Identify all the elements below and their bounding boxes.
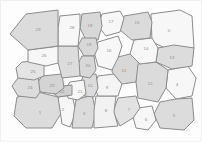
voronoi-cell-29 <box>10 10 58 50</box>
voronoi-cell-1 <box>14 92 62 128</box>
voronoi-cells-group <box>10 10 196 130</box>
voronoi-cell-12 <box>136 62 168 102</box>
voronoi-cell-5 <box>154 98 194 130</box>
voronoi-figure: 0123456789101112131415161718192021222324… <box>0 0 202 142</box>
voronoi-diagram-canvas: 0123456789101112131415161718192021222324… <box>0 0 202 142</box>
voronoi-cell-15 <box>120 12 152 40</box>
voronoi-cell-8 <box>94 96 118 128</box>
voronoi-cell-27 <box>58 46 80 78</box>
voronoi-cell-19 <box>78 38 98 56</box>
voronoi-cell-4 <box>166 66 196 99</box>
voronoi-cell-18 <box>80 12 102 40</box>
voronoi-cell-28 <box>58 14 80 46</box>
